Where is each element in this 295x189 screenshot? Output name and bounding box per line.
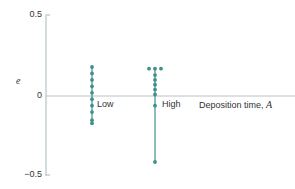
data-point	[90, 72, 94, 76]
data-point	[153, 73, 157, 77]
x-axis-label: Deposition time, A	[199, 99, 272, 110]
category-label-low: Low	[97, 99, 114, 109]
data-point	[153, 92, 157, 96]
y-tick-label-zero: 0	[6, 90, 42, 100]
data-point	[90, 78, 94, 82]
data-point	[153, 104, 157, 108]
x-axis-label-text: Deposition time,	[199, 100, 266, 110]
residual-dot-plot: 0.5 0 −0.5 e Low High Deposition time, A	[0, 0, 295, 189]
data-point	[90, 121, 94, 125]
plot-area	[0, 0, 295, 189]
data-point	[90, 104, 94, 108]
data-point	[90, 84, 94, 88]
data-points	[90, 65, 163, 164]
data-point	[90, 91, 94, 95]
data-point	[90, 97, 94, 101]
x-axis-label-var: A	[266, 99, 272, 110]
y-tick-label-top: 0.5	[6, 9, 42, 19]
data-point	[90, 110, 94, 114]
y-axis-label: e	[16, 75, 20, 86]
data-point	[153, 67, 157, 71]
data-point	[159, 67, 163, 71]
category-label-high: High	[162, 99, 181, 109]
data-point	[153, 88, 157, 92]
y-tick-label-bottom: −0.5	[6, 169, 42, 179]
data-point	[153, 78, 157, 82]
data-point	[147, 67, 151, 71]
data-point	[153, 83, 157, 87]
data-point	[153, 160, 157, 164]
data-point	[90, 65, 94, 69]
